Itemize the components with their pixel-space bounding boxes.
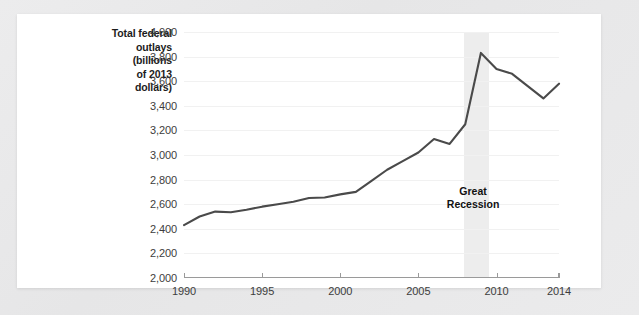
x-axis-tick-label: 2014 <box>547 285 571 297</box>
y-axis-tick-label: 2,400 <box>150 223 177 235</box>
chart-card: Total federal outlays (billions of 2013 … <box>17 14 601 288</box>
x-axis-tick-label: 1995 <box>250 285 274 297</box>
y-axis-tick-label: 3,400 <box>150 100 177 112</box>
series-layer <box>184 32 559 278</box>
x-axis-tick <box>559 273 560 278</box>
x-axis-tick-label: 1990 <box>172 285 196 297</box>
great-recession-annotation: Great Recession <box>447 185 500 211</box>
annotation-line-1: Great <box>447 185 500 198</box>
x-axis-tick-label: 2000 <box>328 285 352 297</box>
y-axis-tick-label: 2,800 <box>150 174 177 186</box>
x-axis-tick <box>262 273 263 278</box>
x-axis-tick <box>184 273 185 278</box>
y-axis-tick-label: 2,200 <box>150 247 177 259</box>
x-axis-tick-label: 2010 <box>484 285 508 297</box>
page-background: Total federal outlays (billions of 2013 … <box>0 0 639 315</box>
x-axis-tick-label: 2005 <box>406 285 430 297</box>
x-axis-tick <box>418 273 419 278</box>
y-axis-tick-label: 2,600 <box>150 198 177 210</box>
x-axis-tick <box>340 273 341 278</box>
y-axis-tick-label: 2,000 <box>150 272 177 284</box>
y-axis-tick-label: 4,000 <box>150 26 177 38</box>
y-axis-tick-label: 3,600 <box>150 75 177 87</box>
line-chart: Total federal outlays (billions of 2013 … <box>17 14 601 288</box>
y-axis-tick-label: 3,000 <box>150 149 177 161</box>
annotation-line-2: Recession <box>447 198 500 211</box>
plot-area: 2,0002,2002,4002,6002,8003,0003,2003,400… <box>184 32 559 278</box>
x-axis-tick <box>497 273 498 278</box>
series-line-total-federal-outlays <box>184 53 559 225</box>
y-axis-tick-label: 3,200 <box>150 124 177 136</box>
y-axis-tick-label: 3,800 <box>150 51 177 63</box>
x-axis-line <box>184 277 559 278</box>
